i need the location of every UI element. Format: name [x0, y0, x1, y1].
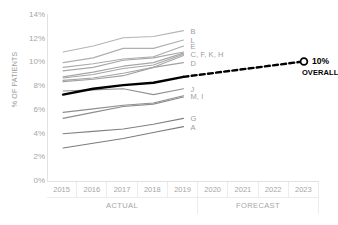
x-axis: 201520162017201820192020202120222023 ACT… — [47, 181, 319, 214]
y-axis-title: % OF PATIENTS — [11, 45, 18, 115]
y-axis-tick-label: 6% — [18, 104, 45, 113]
y-axis-tick-label: 0% — [18, 176, 45, 185]
x-axis-tick-label[interactable]: 2022 — [259, 182, 289, 197]
series-line-g — [63, 118, 183, 133]
x-axis-tick-label[interactable]: 2021 — [228, 182, 258, 197]
overall-sublabel: OVERALL — [302, 68, 338, 77]
series-end-label: M, I — [191, 91, 204, 100]
y-axis-tick-label: 14% — [18, 10, 45, 19]
series-canvas — [48, 14, 319, 180]
y-axis-tick-label: 2% — [18, 152, 45, 161]
series-line-overall-forecast — [184, 61, 304, 76]
series-line-m — [63, 96, 183, 113]
x-axis-tick-label[interactable]: 2017 — [107, 182, 137, 197]
x-axis-tick-label[interactable]: 2023 — [289, 182, 319, 197]
series-line-e — [63, 46, 183, 67]
series-line-a — [63, 127, 183, 148]
x-axis-tick-label[interactable]: 2016 — [77, 182, 107, 197]
x-axis-group-label: ACTUAL — [47, 198, 198, 214]
y-axis-tick-label: 8% — [18, 81, 45, 90]
y-axis-tick-label: 4% — [18, 128, 45, 137]
x-axis-tick-label[interactable]: 2018 — [138, 182, 168, 197]
x-axis-group-row: ACTUALFORECAST — [47, 197, 319, 214]
series-end-label: D — [191, 58, 197, 67]
series-end-label: A — [191, 122, 196, 131]
x-axis-tick-label[interactable]: 2015 — [47, 182, 77, 197]
overall-value-label: 10% — [312, 56, 329, 66]
overall-endpoint-marker — [301, 58, 308, 65]
y-axis-tick-label: 10% — [18, 57, 45, 66]
x-axis-group-label: FORECAST — [198, 198, 319, 214]
series-end-label: B — [191, 26, 196, 35]
plot-area — [48, 14, 319, 180]
x-axis-tick-row: 201520162017201820192020202120222023 — [47, 182, 319, 197]
x-axis-tick-label[interactable]: 2019 — [168, 182, 198, 197]
x-axis-tick-label[interactable]: 2020 — [198, 182, 228, 197]
y-axis-tick-label: 12% — [18, 33, 45, 42]
